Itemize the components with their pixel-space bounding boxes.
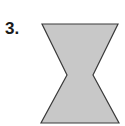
hourglass-figure bbox=[0, 0, 125, 126]
hourglass-shape bbox=[41, 24, 119, 123]
